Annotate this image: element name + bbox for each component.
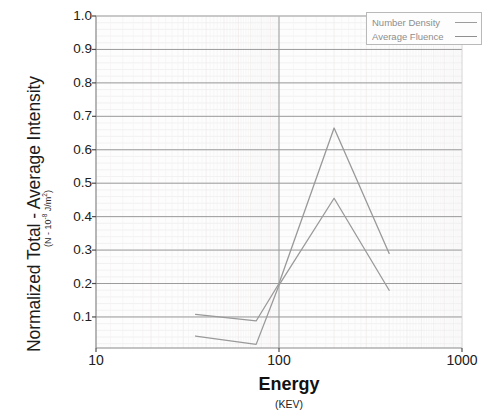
y-axis-subtitle-exponent: -8	[41, 214, 48, 220]
legend-item-swatch	[455, 36, 477, 37]
y-axis-tick-labels: 0.10.20.30.40.50.60.70.80.91.0	[50, 0, 92, 360]
legend-item-label: Number Density	[372, 17, 440, 28]
y-axis-tick-label: 0.2	[52, 277, 92, 291]
x-axis-tick-labels: 101001000	[0, 350, 492, 374]
y-axis-title-group: Normalized Total - Average Intensity (N …	[0, 0, 46, 360]
x-axis-tick-label: 1000	[446, 352, 477, 368]
legend-item[interactable]: Number Density	[372, 15, 477, 29]
x-axis-tick-label: 10	[88, 352, 104, 368]
x-axis-subtitle-text: (KEV)	[275, 398, 303, 410]
y-axis-tick-label: 0.1	[52, 310, 92, 324]
legend-item[interactable]: Average Fluence	[372, 29, 477, 43]
legend-item-label: Average Fluence	[372, 31, 444, 42]
chart-figure: Normalized Total - Average Intensity (N …	[0, 0, 492, 419]
y-axis-tick-label: 0.9	[52, 42, 92, 56]
y-axis-tick-label: 0.4	[52, 210, 92, 224]
legend-item-swatch	[455, 22, 477, 23]
x-axis-subtitle: (KEV)	[0, 398, 492, 410]
y-axis-tick-label: 0.3	[52, 243, 92, 257]
y-axis-tick-label: 1.0	[52, 9, 92, 23]
y-axis-tick-label: 0.8	[52, 76, 92, 90]
y-axis-tick-label: 0.5	[52, 176, 92, 190]
x-axis-title-text: Energy	[258, 374, 319, 394]
y-axis-tick-label: 0.6	[52, 143, 92, 157]
x-axis-title: Energy	[0, 374, 492, 395]
y-axis-subtitle-exponent-2: 2	[41, 193, 48, 197]
y-axis-tick-label: 0.7	[52, 109, 92, 123]
x-axis-tick-label: 100	[267, 352, 290, 368]
chart-legend: Number DensityAverage Fluence	[366, 12, 482, 45]
